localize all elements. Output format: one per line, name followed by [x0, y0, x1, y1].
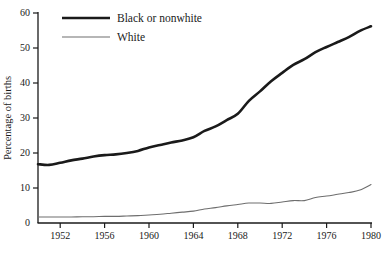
- y-axis-tick-label: 10: [20, 182, 30, 193]
- y-axis-title: Percentage of births: [2, 76, 13, 160]
- legend-label-1: White: [117, 31, 145, 43]
- y-axis-tick-label: 50: [20, 42, 30, 53]
- y-axis-tick-label: 60: [20, 7, 30, 18]
- y-axis-tick-label: 20: [20, 147, 30, 158]
- caption-sliver: [62, 256, 382, 263]
- series-line-black-or-nonwhite: [38, 26, 371, 165]
- x-axis-tick-label: 1956: [95, 230, 115, 241]
- y-axis-tick-label: 40: [20, 77, 30, 88]
- x-axis-tick-label: 1960: [139, 230, 159, 241]
- y-axis-tick-label: 30: [20, 112, 30, 123]
- x-axis-tick-label: 1972: [272, 230, 292, 241]
- x-axis-tick-label: 1952: [50, 230, 70, 241]
- series-line-white: [38, 185, 371, 218]
- y-axis-tick-label: 0: [25, 217, 30, 228]
- x-axis-tick-label: 1980: [361, 230, 381, 241]
- line-chart: 0102030405060195219561960196419681972197…: [0, 0, 388, 264]
- chart-container: 0102030405060195219561960196419681972197…: [0, 0, 388, 264]
- x-axis-tick-label: 1976: [317, 230, 337, 241]
- x-axis-tick-label: 1964: [183, 230, 203, 241]
- legend-label-0: Black or nonwhite: [117, 12, 202, 24]
- x-axis-tick-label: 1968: [228, 230, 248, 241]
